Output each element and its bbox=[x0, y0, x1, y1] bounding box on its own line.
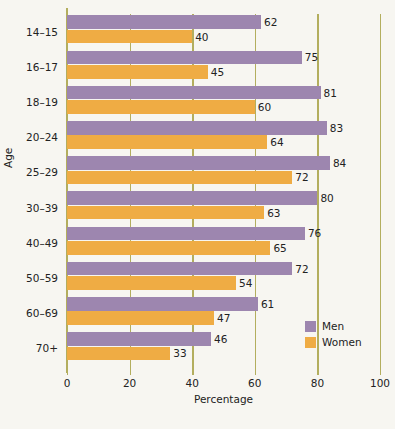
bar-group: 8472 bbox=[67, 155, 380, 190]
bar-value-label: 61 bbox=[261, 298, 274, 310]
x-axis-tick-label: 40 bbox=[186, 377, 199, 389]
bar-group: 8364 bbox=[67, 120, 380, 155]
bar-group: 8160 bbox=[67, 84, 380, 119]
x-axis-tick-label: 80 bbox=[311, 377, 324, 389]
bar-value-label: 75 bbox=[305, 51, 318, 63]
bar-group: 7665 bbox=[67, 225, 380, 260]
bar-value-label: 72 bbox=[295, 171, 308, 183]
bar-group: 7545 bbox=[67, 49, 380, 84]
legend-label: Men bbox=[322, 320, 344, 332]
bar-value-label: 64 bbox=[270, 136, 283, 148]
bar-men: 62 bbox=[67, 15, 261, 29]
x-axis-tick-label: 100 bbox=[370, 377, 390, 389]
bar-group: 7254 bbox=[67, 260, 380, 295]
chart-legend: MenWomen bbox=[305, 320, 362, 352]
plot-area: 6240754581608364847280637665725461474633… bbox=[67, 14, 380, 366]
bar-value-label: 40 bbox=[195, 31, 208, 43]
x-axis-tick-label: 20 bbox=[123, 377, 136, 389]
x-axis-title: Percentage bbox=[67, 393, 380, 405]
bar-men: 81 bbox=[67, 86, 321, 100]
bar-group: 8063 bbox=[67, 190, 380, 225]
x-axis-tick bbox=[130, 366, 131, 375]
x-axis-tick bbox=[67, 366, 68, 375]
x-axis-tick bbox=[192, 366, 193, 375]
bar-men: 83 bbox=[67, 121, 327, 135]
bar-group: 6240 bbox=[67, 14, 380, 49]
category-label: 14–15 bbox=[26, 26, 58, 38]
bar-value-label: 60 bbox=[258, 101, 271, 113]
bar-women: 54 bbox=[67, 276, 236, 290]
bar-value-label: 72 bbox=[295, 263, 308, 275]
x-axis-tick-label: 60 bbox=[248, 377, 261, 389]
bar-chart: 14–1516–1718–1920–2425–2930–3940–4950–59… bbox=[0, 0, 395, 429]
bar-men: 76 bbox=[67, 227, 305, 241]
category-label: 25–29 bbox=[26, 166, 58, 178]
bar-women: 60 bbox=[67, 100, 255, 114]
bar-women: 40 bbox=[67, 30, 192, 44]
y-axis-category-labels: 14–1516–1718–1920–2425–2930–3940–4950–59… bbox=[0, 14, 62, 366]
bar-value-label: 54 bbox=[239, 277, 252, 289]
category-label: 16–17 bbox=[26, 61, 58, 73]
bar-women: 72 bbox=[67, 171, 292, 185]
x-axis-tick bbox=[380, 366, 381, 375]
category-label: 50–59 bbox=[26, 272, 58, 284]
bar-men: 84 bbox=[67, 156, 330, 170]
bar-value-label: 46 bbox=[214, 333, 227, 345]
bar-value-label: 81 bbox=[324, 87, 337, 99]
legend-item-men[interactable]: Men bbox=[305, 320, 362, 332]
bar-men: 80 bbox=[67, 191, 317, 205]
bar-men: 46 bbox=[67, 332, 211, 346]
x-axis-tick bbox=[317, 366, 318, 375]
category-label: 70+ bbox=[36, 342, 58, 354]
bar-value-label: 76 bbox=[308, 227, 321, 239]
bar-men: 72 bbox=[67, 262, 292, 276]
bar-women: 63 bbox=[67, 206, 264, 220]
category-label: 40–49 bbox=[26, 237, 58, 249]
gridline bbox=[380, 14, 381, 366]
bar-value-label: 45 bbox=[211, 66, 224, 78]
category-label: 30–39 bbox=[26, 202, 58, 214]
x-axis-ticks: 020406080100 bbox=[67, 366, 380, 376]
legend-swatch-men bbox=[305, 321, 316, 332]
bar-women: 33 bbox=[67, 347, 170, 361]
x-axis-tick-label: 0 bbox=[64, 377, 71, 389]
bar-women: 45 bbox=[67, 65, 208, 79]
bar-value-label: 33 bbox=[173, 347, 186, 359]
bar-value-label: 84 bbox=[333, 157, 346, 169]
legend-label: Women bbox=[322, 336, 362, 348]
x-axis-tick bbox=[255, 366, 256, 375]
category-label: 20–24 bbox=[26, 131, 58, 143]
bar-value-label: 63 bbox=[267, 207, 280, 219]
category-label: 60–69 bbox=[26, 307, 58, 319]
bar-women: 64 bbox=[67, 135, 267, 149]
bar-women: 47 bbox=[67, 311, 214, 325]
legend-item-women[interactable]: Women bbox=[305, 336, 362, 348]
bar-women: 65 bbox=[67, 241, 270, 255]
legend-swatch-women bbox=[305, 337, 316, 348]
bar-value-label: 62 bbox=[264, 16, 277, 28]
bar-value-label: 65 bbox=[273, 242, 286, 254]
bar-men: 61 bbox=[67, 297, 258, 311]
y-axis-title: Age bbox=[2, 148, 14, 168]
category-label: 18–19 bbox=[26, 96, 58, 108]
bar-value-label: 80 bbox=[320, 192, 333, 204]
bar-value-label: 83 bbox=[330, 122, 343, 134]
bar-value-label: 47 bbox=[217, 312, 230, 324]
bar-men: 75 bbox=[67, 51, 302, 65]
